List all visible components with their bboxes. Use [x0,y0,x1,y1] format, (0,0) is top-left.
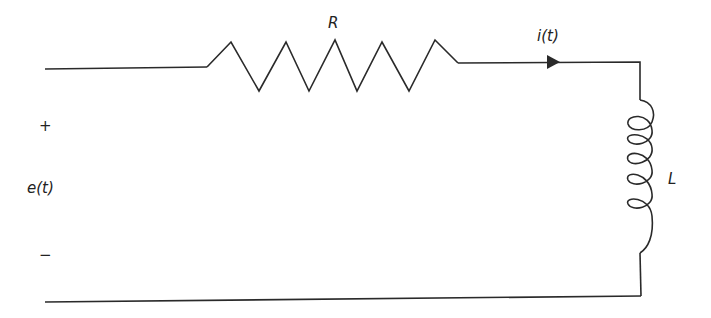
current-arrow-icon [547,55,560,69]
bottom-wire [45,296,641,302]
right-bottom-wire [640,253,641,296]
minus-sign: − [39,248,52,263]
resistor-zigzag [207,40,458,91]
inductor-coil [628,100,654,253]
top-left-wire [45,67,207,69]
circuit-schematic [0,0,711,318]
inductor-label: L [668,172,676,187]
plus-sign: + [39,119,52,134]
resistor-label: R [328,16,338,31]
current-label: i(t) [537,29,559,44]
source-label: e(t) [27,181,54,196]
